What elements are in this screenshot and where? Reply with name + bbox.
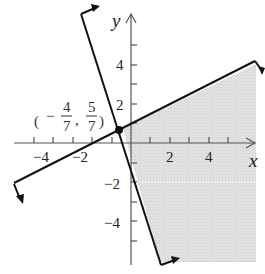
label-y-denominator: 7 <box>88 118 96 134</box>
line-1-arrow-upper-icon <box>258 66 265 75</box>
label-paren-close: ) <box>99 113 104 130</box>
x-tick-label-4: 4 <box>205 149 213 165</box>
x-tick-label-neg4: −4 <box>33 149 49 165</box>
intersection-point <box>115 126 123 134</box>
x-tick-label-2: 2 <box>166 149 174 165</box>
label-x-denominator: 7 <box>63 118 71 134</box>
label-comma: , <box>75 112 79 128</box>
label-minus: − <box>46 108 54 124</box>
line-2-arrow-upper-icon <box>91 4 100 12</box>
graph-plot: −4 −2 2 4 x 4 2 −2 −4 y ( − 4 7 , 5 7 ) <box>0 0 265 274</box>
line-1-arrow-lower-icon <box>16 194 24 204</box>
y-tick-label-4: 4 <box>116 57 124 73</box>
intersection-label: ( − 4 7 , 5 7 ) <box>34 99 104 134</box>
y-tick-label-neg2: −2 <box>104 176 120 192</box>
x-axis-label: x <box>248 150 258 171</box>
label-x-numerator: 4 <box>63 99 71 115</box>
label-paren-open: ( <box>34 113 39 130</box>
y-axis-label: y <box>110 10 121 31</box>
label-y-numerator: 5 <box>88 99 96 115</box>
y-tick-label-2: 2 <box>116 97 124 113</box>
y-tick-label-neg4: −4 <box>104 215 120 231</box>
